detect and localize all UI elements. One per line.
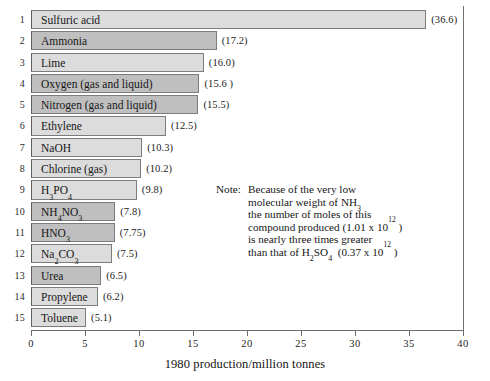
x-axis-tick-label: 15 [173,338,213,349]
plot-area: 1Sulfuric acid(36.6)2Ammonia(17.2)3Lime(… [0,0,490,340]
bar[interactable]: Nitrogen (gas and liquid) [31,95,198,114]
bar[interactable]: NH4NO3 [31,202,115,221]
x-axis-tick [193,331,194,336]
bar-value-label: (7.8) [120,202,141,221]
bar-category-label: Chlorine (gas) [41,160,107,179]
bar-rank-number: 4 [0,73,25,94]
note-line: the number of moles of this [248,208,464,221]
bar-value-label: (36.6) [431,10,457,29]
bar-value-label: (7.5) [117,244,138,263]
x-axis-tick [85,331,86,336]
bar-category-label: Lime [41,54,65,73]
bar-category-label: NH4NO3 [41,203,82,222]
bar[interactable]: Urea [31,266,101,285]
note-line: compound produced (1.01 x 1012 ) [248,221,464,234]
x-axis-tick [355,331,356,336]
bar-rank-number: 6 [0,115,25,136]
bar-category-label: Propylene [41,288,88,307]
x-axis-tick [247,331,248,336]
bar-rank-number: 1 [0,9,25,30]
bar-value-label: (16.0) [209,53,235,72]
x-axis-tick-label: 40 [443,338,483,349]
bar-rows-container: 1Sulfuric acid(36.6)2Ammonia(17.2)3Lime(… [0,9,490,328]
bar-row: 2Ammonia(17.2) [0,30,490,51]
bar-row: 14Propylene(6.2) [0,286,490,307]
bar-value-label: (5.1) [91,308,112,327]
axis-frame-right [463,6,464,330]
bar-value-label: (12.5) [171,116,197,135]
bar-category-label: Oxygen (gas and liquid) [41,75,152,94]
bar-category-label: Na2CO3 [41,245,78,264]
bar-category-label: Nitrogen (gas and liquid) [41,96,157,115]
chart-note: Note: Because of the very lowmolecular w… [216,183,464,259]
note-line: is nearly three times greater [248,233,464,246]
bar-value-label: (17.2) [222,31,248,50]
bar-row: 1Sulfuric acid(36.6) [0,9,490,30]
note-head-label: Note: [216,183,241,196]
bar-value-label: (7.75) [120,223,146,242]
bar[interactable]: Ammonia [31,31,217,50]
bar[interactable]: Chlorine (gas) [31,159,141,178]
production-bar-chart: 1Sulfuric acid(36.6)2Ammonia(17.2)3Lime(… [0,0,490,381]
bar-value-label: (10.3) [147,138,173,157]
note-line: than that of H2SO4 (0.37 x 1012 ) [248,246,464,259]
bar[interactable]: Lime [31,53,204,72]
bar-value-label: (6.2) [103,287,124,306]
x-axis-tick [301,331,302,336]
bar[interactable]: Sulfuric acid [31,10,426,29]
bar[interactable]: Propylene [31,287,98,306]
bar[interactable]: HNO3 [31,223,115,242]
bar-rank-number: 3 [0,52,25,73]
bar-value-label: (10.2) [146,159,172,178]
bar-rank-number: 14 [0,286,25,307]
bar-row: 3Lime(16.0) [0,52,490,73]
bar-row: 15Toluene(5.1) [0,307,490,328]
bar-value-label: (9.8) [142,180,163,199]
x-axis-tick-label: 20 [227,338,267,349]
bar-category-label: Ammonia [41,32,87,51]
bar-row: 4Oxygen (gas and liquid)(15.6 ) [0,73,490,94]
bar-category-label: Urea [41,267,63,286]
x-axis-tick-label: 30 [335,338,375,349]
note-line: Because of the very low [248,183,464,196]
x-axis-tick [463,331,464,336]
x-axis-tick [139,331,140,336]
bar-category-label: Sulfuric acid [41,11,100,30]
x-axis-tick-label: 10 [119,338,159,349]
bar[interactable]: NaOH [31,138,142,157]
bar[interactable]: Na2CO3 [31,244,112,263]
bar-value-label: (6.5) [106,266,127,285]
x-axis-tick-label: 5 [65,338,105,349]
bar-rank-number: 11 [0,222,25,243]
bar[interactable]: H3PO4 [31,180,137,199]
bar-rank-number: 13 [0,265,25,286]
bar[interactable]: Toluene [31,308,86,327]
bar-row: 6Ethylene(12.5) [0,115,490,136]
bar-row: 13Urea(6.5) [0,265,490,286]
note-body: Because of the very lowmolecular weight … [248,183,464,259]
bar-rank-number: 15 [0,307,25,328]
x-axis-tick-label: 25 [281,338,321,349]
bar-category-label: H3PO4 [41,181,72,200]
bar-rank-number: 2 [0,30,25,51]
bar-rank-number: 7 [0,137,25,158]
bar-rank-number: 12 [0,243,25,264]
x-axis-tick-label: 35 [389,338,429,349]
note-line: molecular weight of NH3 [248,196,464,209]
bar-category-label: NaOH [41,139,71,158]
bar-category-label: HNO3 [41,224,70,243]
bar-value-label: (15.6 ) [204,74,233,93]
bar-rank-number: 10 [0,201,25,222]
bar-rank-number: 5 [0,94,25,115]
x-axis-tick-label: 0 [11,338,51,349]
bar[interactable]: Oxygen (gas and liquid) [31,74,199,93]
bar-row: 5Nitrogen (gas and liquid)(15.5) [0,94,490,115]
bar-value-label: (15.5) [203,95,229,114]
bar-row: 8Chlorine (gas)(10.2) [0,158,490,179]
x-axis-tick [31,331,32,336]
bar[interactable]: Ethylene [31,116,166,135]
bar-rank-number: 9 [0,179,25,200]
bar-category-label: Toluene [41,309,78,328]
bar-category-label: Ethylene [41,117,82,136]
x-axis-title: 1980 production/million tonnes [0,357,490,372]
